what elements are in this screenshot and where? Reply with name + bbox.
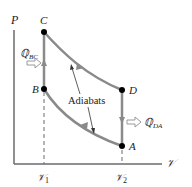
point-c	[41, 29, 47, 35]
point-d	[119, 87, 125, 93]
adiabats-label: Adiabats	[68, 95, 105, 106]
label-c: C	[40, 14, 48, 26]
v1-tick-label: 𝒱 1	[37, 172, 49, 185]
point-a	[119, 143, 125, 149]
y-axis-label: P	[10, 13, 19, 27]
direction-arrow-down-icon	[119, 117, 125, 124]
label-b: B	[32, 83, 39, 95]
direction-arrow-up-icon	[41, 59, 47, 66]
point-b	[41, 86, 47, 92]
svg-text:2: 2	[123, 176, 127, 185]
svg-text:DA: DA	[152, 122, 163, 130]
v2-tick-label: 𝒱 2	[115, 172, 127, 185]
adiabat-cd-curve	[44, 32, 122, 90]
heat-out-arrow-icon	[127, 117, 141, 127]
label-d: D	[128, 84, 137, 96]
pointer-head-top-icon	[70, 64, 74, 70]
x-axis-label: 𝒱	[166, 157, 179, 169]
adiabats-pointer-top	[72, 68, 80, 94]
adiabats-pointer-bottom	[88, 107, 93, 130]
heat-out-label: ℚ DA	[144, 116, 163, 130]
label-a: A	[128, 140, 136, 152]
svg-text:1: 1	[45, 176, 49, 185]
pv-diagram: P 𝒱 𝒱 1 𝒱 2 C B D A ℚ BC ℚ DA Adiabats	[0, 0, 192, 187]
